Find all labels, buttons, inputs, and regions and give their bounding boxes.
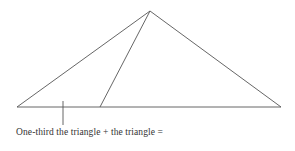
large-triangle [17, 11, 281, 107]
equation-caption: One-third the triangle + the triangle = [16, 127, 163, 137]
dividing-line [100, 11, 150, 107]
